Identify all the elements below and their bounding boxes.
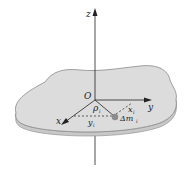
mass-label: Δm [119, 114, 134, 123]
moment-of-inertia-diagram: z y x O ρ i x i y i Δm i [0, 0, 186, 180]
z-arrowhead-icon [93, 8, 98, 16]
y-label: y [147, 102, 154, 112]
origin-label: O [84, 91, 92, 101]
mass-element-point [112, 114, 118, 120]
rho-label: ρ [92, 103, 99, 113]
plate [15, 66, 176, 132]
z-label: z [85, 9, 91, 19]
x-label: x [56, 116, 61, 126]
